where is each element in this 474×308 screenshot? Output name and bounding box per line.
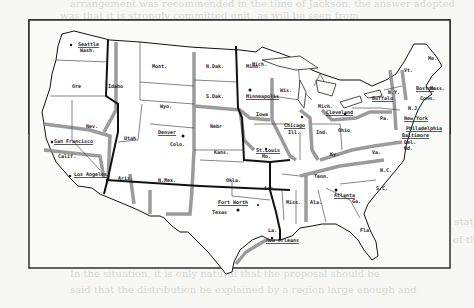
state-label-pa: Pa.: [380, 115, 389, 121]
state-label-del: Del.: [404, 139, 416, 145]
city-label-fort-worth: Fort Worth: [218, 199, 248, 205]
state-label-fla: Fla.: [360, 227, 372, 233]
state-label-ill: Ill.: [288, 129, 300, 135]
state-label-wyo: Wyo.: [160, 103, 172, 110]
city-label-boston: Boston: [416, 85, 434, 91]
state-label-ore: Ore: [72, 83, 81, 89]
state-label-ndak: N.Dak.: [206, 63, 224, 69]
state-label-nmex: N.Mex.: [158, 177, 176, 183]
state-label-va: Va.: [372, 149, 381, 155]
us-map: Wash. Ore Calif. Idaho Nev. Mont. Wyo. U…: [0, 0, 474, 308]
state-label-okla: Okla.: [226, 177, 241, 183]
state-label-sdak: S.Dak.: [206, 93, 224, 99]
city-label-atlanta: Atlanta: [334, 192, 355, 198]
state-label-nev: Nev.: [86, 123, 98, 129]
city-label-new-york: New York: [404, 115, 428, 121]
state-label-nebr: Nebr: [210, 123, 222, 129]
state-label-vt: Vt.: [404, 67, 413, 73]
state-label-md: Md.: [404, 145, 413, 151]
city-label-denver: Denver: [158, 129, 176, 135]
state-label-wash: Wash.: [80, 47, 95, 53]
state-label-sc: S.C.: [376, 185, 388, 191]
state-label-texas: Texas: [212, 209, 227, 215]
city-label-philadelphia: Philadelphia: [406, 125, 442, 132]
state-label-calif: Calif.: [58, 153, 76, 159]
state-label-mich-upper: Mich.: [252, 61, 267, 67]
city-label-seattle: Seattle: [78, 41, 99, 47]
state-label-conn: Conn.: [420, 95, 435, 101]
state-label-la: La.: [268, 227, 277, 233]
state-label-kans: Kans.: [214, 149, 229, 155]
city-label-minneapolis: Minneapolis: [246, 93, 279, 100]
state-label-nc: N.C.: [380, 167, 392, 173]
state-label-tenn: Tenn.: [314, 173, 329, 179]
state-label-utah: Utah: [124, 135, 136, 141]
city-label-chicago: Chicago: [284, 122, 305, 129]
city-label-baltimore: Baltimore: [402, 132, 429, 138]
state-label-nj: N.J.: [408, 105, 420, 111]
city-label-san-francisco: San Francisco: [54, 138, 93, 144]
state-label-ky: Ky.: [330, 151, 339, 158]
state-label-miss: Miss.: [286, 199, 301, 205]
state-label-colo: Colo.: [170, 141, 185, 147]
state-label-mont: Mont.: [152, 63, 167, 69]
state-label-iowa: Iowa: [256, 111, 268, 117]
state-label-wis: Wis.: [280, 87, 292, 93]
state-label-ariz: Ariz.: [118, 175, 133, 181]
city-label-st-louis: St.Louis: [256, 147, 280, 153]
city-label-buffalo: Buffalo: [372, 95, 393, 101]
city-label-new-orleans: New Orleans: [266, 237, 299, 243]
state-label-ala: Ala.: [310, 199, 322, 205]
state-label-mo: Mo.: [262, 153, 271, 159]
state-label-idaho: Idaho: [108, 83, 123, 89]
state-label-ind: Ind.: [316, 129, 328, 135]
city-label-los-angeles: Los Angeles: [74, 171, 107, 178]
city-label-cleveland: Cleveland: [326, 109, 353, 115]
state-label-ohio: Ohio: [338, 127, 350, 133]
state-label-me: Me.: [428, 55, 437, 61]
state-label-ark: Ark.: [264, 185, 276, 191]
state-label-ga: Ga.: [352, 198, 361, 204]
